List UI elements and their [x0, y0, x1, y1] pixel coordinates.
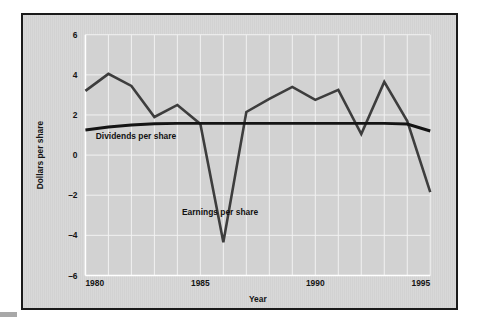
scan-artifact-mark [0, 312, 17, 317]
y-axis-title: Dollars per share [35, 121, 45, 190]
x-axis-title: Year [249, 294, 268, 304]
y-axis-tick-label: –4 [68, 230, 78, 240]
x-axis-tick-labels: 1980198519901995 [85, 278, 430, 288]
earnings-per-share-annotation: Earnings per share [182, 207, 259, 217]
y-axis-tick-label: 6 [73, 30, 78, 40]
y-axis-tick-labels: 6420–2–4–6 [68, 30, 78, 281]
y-axis-tick-label: 0 [73, 150, 78, 160]
x-axis-tick-label: 1995 [412, 278, 431, 288]
chart-plot-svg: 6420–2–4–6 1980198519901995 Dividends pe… [23, 15, 456, 308]
y-axis-tick-label: 4 [73, 70, 78, 80]
x-axis-tick-label: 1990 [306, 278, 325, 288]
y-axis-tick-label: –2 [68, 190, 78, 200]
chart-figure-frame: 6420–2–4–6 1980198519901995 Dividends pe… [21, 13, 458, 310]
y-axis-tick-label: 2 [73, 110, 78, 120]
x-axis-tick-label: 1985 [191, 278, 210, 288]
x-axis-tick-label: 1980 [85, 278, 104, 288]
dividends-per-share-annotation: Dividends per share [96, 131, 177, 141]
y-axis-tick-label: –6 [68, 271, 78, 281]
